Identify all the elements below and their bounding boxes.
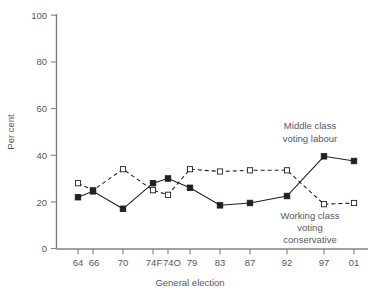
data-point-marker (120, 167, 125, 172)
x-axis-ticks: 64 66 70 74F 74O 79 83 87 92 97 01 (73, 249, 360, 268)
x-tick-label-64: 64 (73, 257, 84, 268)
x-tick-label-74F: 74F (146, 257, 163, 268)
data-point-marker (351, 158, 357, 164)
x-tick-label-74O: 74O (163, 257, 181, 268)
annotation-line: Working class (281, 210, 340, 221)
series-line (78, 169, 354, 204)
x-tick-label-01: 01 (349, 257, 360, 268)
series-working-class-conservative-markers (75, 167, 356, 207)
data-point-marker (150, 188, 155, 193)
data-point-marker (187, 185, 193, 191)
y-tick-label-0: 0 (42, 243, 47, 254)
data-point-marker (321, 202, 326, 207)
annotation-working-class-conservative: Working class voting conservative (281, 210, 340, 245)
data-point-marker (90, 189, 96, 195)
data-point-marker (284, 193, 290, 199)
y-tick-label-40: 40 (36, 150, 47, 161)
series-line (78, 156, 354, 209)
data-point-marker (75, 194, 81, 200)
data-point-marker (75, 181, 80, 186)
x-tick-label-92: 92 (282, 257, 293, 268)
annotation-line: voting (297, 222, 322, 233)
x-tick-label-97: 97 (319, 257, 330, 268)
series-middle-class-labour-line (78, 156, 354, 209)
x-tick-label-66: 66 (89, 257, 100, 268)
x-tick-label-70: 70 (118, 257, 129, 268)
annotation-line: Middle class (284, 120, 337, 131)
data-point-marker (321, 154, 327, 160)
y-tick-label-20: 20 (36, 197, 47, 208)
y-axis-ticks: 0 20 40 60 80 100 (31, 10, 56, 254)
y-tick-label-100: 100 (31, 10, 47, 21)
y-tick-label-60: 60 (36, 103, 47, 114)
data-point-marker (247, 168, 252, 173)
x-axis-title: General election (155, 277, 224, 288)
annotation-line: voting labour (283, 133, 337, 144)
chart-figure: 0 20 40 60 80 100 64 66 70 74F 74O 79 (0, 0, 373, 295)
data-point-marker (120, 206, 126, 212)
data-point-marker (351, 200, 356, 205)
data-point-marker (150, 180, 156, 186)
y-axis-title: Per cent (5, 114, 16, 150)
data-point-marker (217, 203, 223, 209)
x-tick-label-83: 83 (215, 257, 226, 268)
y-tick-label-80: 80 (36, 56, 47, 67)
data-point-marker (217, 169, 222, 174)
data-point-marker (165, 192, 170, 197)
x-tick-label-87: 87 (245, 257, 256, 268)
annotation-line: conservative (283, 234, 336, 245)
x-tick-label-79: 79 (187, 257, 198, 268)
data-point-marker (187, 167, 192, 172)
data-point-marker (247, 200, 253, 206)
annotation-middle-class-labour: Middle class voting labour (283, 120, 337, 144)
data-point-marker (165, 176, 171, 182)
line-chart: 0 20 40 60 80 100 64 66 70 74F 74O 79 (0, 0, 373, 295)
series-working-class-conservative-line (78, 169, 354, 204)
data-point-marker (284, 168, 289, 173)
